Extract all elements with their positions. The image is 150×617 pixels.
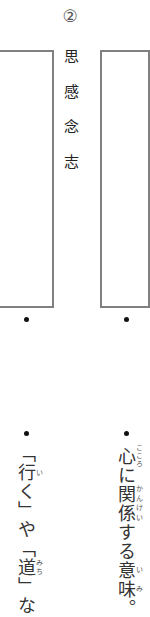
note-text: する [115,523,136,561]
note-text: 」な [15,577,36,615]
note-text: 。 [115,599,136,617]
bullet-dot-icon [124,431,129,436]
note-left: 「行いく」や「道みち」な [14,444,43,615]
note-right: 心こころに関係かんけいする意味いみ。 [114,444,143,617]
ruby-word: 意味いみ [115,561,136,599]
ruby-word: 行い [15,463,36,482]
note-text: 「 [15,444,36,463]
bullet-dot-icon [24,317,29,322]
ruby-word: 心こころ [115,444,136,466]
question-number: ② [60,6,80,26]
bullet-dot-icon [24,431,29,436]
note-text: く」や「 [15,482,36,558]
kanji-item: 念 [60,120,82,135]
ruby-word: 道みち [15,558,36,577]
ruby-word: 関係かんけい [115,485,136,523]
answer-box-left[interactable] [0,50,54,308]
kanji-item: 志 [60,155,82,170]
answer-box-right[interactable] [100,50,150,308]
kanji-item: 感 [60,85,82,100]
bullet-dot-icon [124,317,129,322]
kanji-column: 思 感 念 志 [60,50,82,190]
note-text: に [115,466,136,485]
kanji-item: 思 [60,50,82,65]
